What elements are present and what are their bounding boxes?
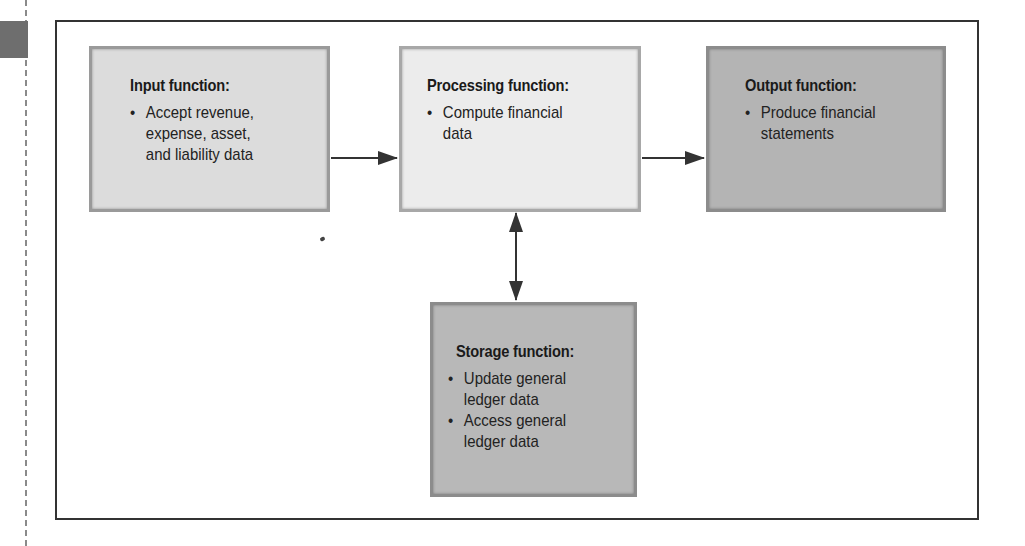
storage-function-bullet-update: Update general ledger data — [448, 368, 612, 410]
output-function-bullet: Produce financial statements — [745, 102, 919, 144]
output-function-title: Output function: — [745, 76, 915, 96]
processing-function-bullet: Compute financial data — [427, 102, 613, 144]
storage-function-title: Storage function: — [456, 342, 609, 362]
output-function-box: Output function: Produce financial state… — [706, 46, 946, 212]
storage-function-box: Storage function: Update general ledger … — [430, 302, 637, 497]
storage-function-bullet-access: Access general ledger data — [448, 410, 612, 452]
input-function-title: Input function: — [130, 76, 299, 96]
input-function-box: Input function: Accept revenue, expense,… — [89, 46, 330, 212]
processing-function-box: Processing function: Compute financial d… — [399, 46, 641, 212]
processing-function-title: Processing function: — [427, 76, 608, 96]
input-function-bullet: Accept revenue, expense, asset, and liab… — [130, 102, 303, 165]
